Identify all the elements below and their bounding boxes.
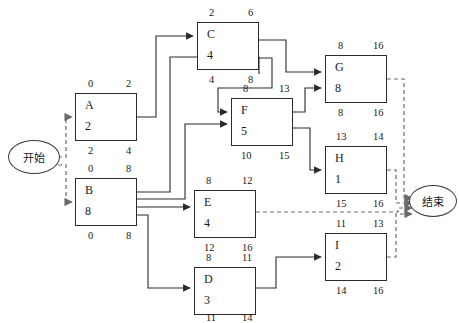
- node-f-es: 8: [243, 84, 248, 95]
- node-c-es: 2: [209, 8, 214, 19]
- node-c-ls: 4: [209, 75, 214, 86]
- edge-f-to-g: [293, 88, 321, 112]
- node-g-name: G: [335, 61, 344, 73]
- node-h-duration: 1: [335, 173, 341, 185]
- node-h-name: H: [335, 152, 344, 164]
- node-g-lf: 16: [373, 108, 384, 119]
- node-h-es: 13: [336, 132, 347, 143]
- node-h[interactable]: H 1: [325, 146, 387, 194]
- node-i-ef: 13: [373, 219, 384, 230]
- node-d-duration: 3: [204, 294, 210, 306]
- edge-c-to-g: [259, 40, 321, 72]
- node-h-ls: 15: [336, 199, 347, 210]
- node-b[interactable]: B 8: [75, 178, 137, 226]
- node-g-es: 8: [338, 41, 343, 52]
- node-e-name: E: [204, 196, 211, 208]
- edge-b-to-f: [137, 124, 227, 199]
- node-i-name: I: [335, 239, 339, 251]
- node-i-ls: 14: [336, 286, 347, 297]
- end-node-label: 结束: [422, 193, 444, 209]
- node-d[interactable]: D 3: [194, 267, 256, 315]
- node-b-es: 0: [88, 164, 93, 175]
- edge-b-to-d: [137, 215, 190, 288]
- edge-i-to-end: [387, 214, 412, 257]
- node-e-es: 8: [206, 176, 211, 187]
- node-i[interactable]: I 2: [325, 233, 387, 281]
- start-node-label: 开始: [23, 149, 45, 165]
- edge-a-to-c: [137, 36, 193, 117]
- node-e-duration: 4: [204, 217, 210, 229]
- node-d-ef: 11: [242, 253, 252, 264]
- edge-g-to-end: [387, 79, 412, 198]
- node-a-lf: 4: [126, 146, 131, 157]
- start-node[interactable]: 开始: [8, 140, 60, 174]
- node-g-duration: 8: [335, 82, 341, 94]
- node-a-duration: 2: [85, 120, 91, 132]
- node-d-name: D: [204, 273, 213, 285]
- node-c-name: C: [207, 28, 215, 40]
- node-g-ef: 16: [373, 41, 384, 52]
- edge-start-to-b: [58, 165, 72, 202]
- node-i-duration: 2: [335, 260, 341, 272]
- node-d-es: 8: [206, 253, 211, 264]
- node-d-ls: 11: [206, 313, 216, 323]
- edge-d-to-i: [256, 257, 321, 288]
- node-e[interactable]: E 4: [194, 190, 256, 238]
- node-b-ls: 0: [88, 231, 93, 242]
- node-f-ls: 10: [241, 151, 252, 162]
- node-h-lf: 16: [373, 199, 384, 210]
- node-a[interactable]: A 2: [75, 93, 137, 141]
- node-f-duration: 5: [241, 125, 247, 137]
- node-h-ef: 14: [373, 132, 384, 143]
- node-f-name: F: [241, 104, 248, 116]
- node-a-name: A: [85, 99, 94, 111]
- node-a-ls: 2: [88, 146, 93, 157]
- network-diagram-canvas: 开始 结束 0 2 A 2 2 4 0 8 B 8 0 8 2 6 C 4 4 …: [0, 0, 459, 323]
- node-b-duration: 8: [85, 205, 91, 217]
- node-c-ef: 6: [248, 8, 253, 19]
- node-c[interactable]: C 4: [197, 22, 259, 70]
- node-g-ls: 8: [338, 108, 343, 119]
- node-b-lf: 8: [126, 231, 131, 242]
- node-f[interactable]: F 5: [231, 98, 293, 146]
- node-i-lf: 16: [373, 286, 384, 297]
- node-c-duration: 4: [207, 49, 213, 61]
- node-f-lf: 15: [279, 151, 290, 162]
- node-g[interactable]: G 8: [325, 55, 387, 103]
- end-node[interactable]: 结束: [409, 185, 457, 217]
- node-a-es: 0: [88, 79, 93, 90]
- node-c-lf: 8: [248, 75, 253, 86]
- node-b-ef: 8: [126, 164, 131, 175]
- edge-f-to-h: [293, 128, 321, 170]
- edge-e-to-end: [256, 208, 412, 212]
- node-a-ef: 2: [126, 79, 131, 90]
- node-d-lf: 14: [242, 313, 253, 323]
- node-i-es: 11: [336, 219, 346, 230]
- node-e-ef: 12: [242, 176, 253, 187]
- edge-start-to-a: [58, 117, 72, 157]
- node-f-ef: 13: [279, 84, 290, 95]
- node-b-name: B: [85, 184, 93, 196]
